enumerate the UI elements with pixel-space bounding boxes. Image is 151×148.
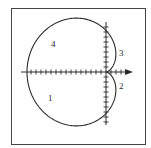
region-label-4: 4 — [51, 40, 56, 49]
frame-border — [12, 9, 146, 145]
x-axis-arrowhead-icon — [125, 69, 133, 75]
region-label-3: 3 — [119, 49, 124, 58]
cardioid-diagram — [0, 0, 151, 148]
region-label-1: 1 — [48, 94, 53, 103]
x-axis — [21, 70, 129, 75]
y-axis — [104, 22, 109, 125]
region-label-2: 2 — [119, 82, 124, 91]
